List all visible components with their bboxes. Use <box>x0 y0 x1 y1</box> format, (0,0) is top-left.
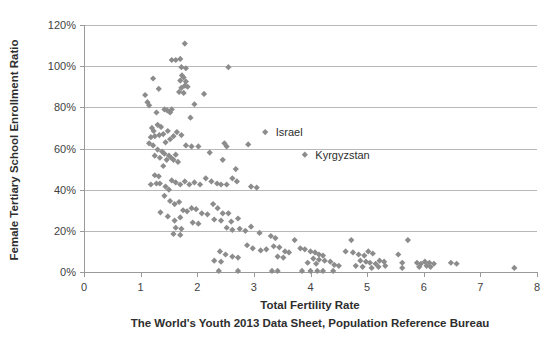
data-point <box>150 75 156 81</box>
scatter-chart: 0%20%40%60%80%100%120% 012345678 IsraelK… <box>0 0 553 343</box>
x-tick-label: 0 <box>81 281 87 293</box>
chart-subtitle: The World's Youth 2013 Data Sheet, Popul… <box>131 317 490 329</box>
y-tick-label: 120% <box>48 19 76 31</box>
data-point <box>320 268 326 274</box>
data-point <box>248 224 254 230</box>
data-point <box>190 220 196 226</box>
data-point <box>237 226 243 232</box>
data-point <box>310 256 316 262</box>
data-point <box>207 150 213 156</box>
data-point <box>225 210 231 216</box>
data-point <box>165 213 171 219</box>
data-point <box>269 268 275 274</box>
data-point <box>322 258 328 264</box>
y-tick-label: 100% <box>48 60 76 72</box>
data-point <box>356 251 362 257</box>
x-tick-label: 8 <box>534 281 540 293</box>
data-point <box>248 183 254 189</box>
data-point <box>173 57 179 63</box>
data-point <box>195 143 201 149</box>
annotation-label: Kyrgyzstan <box>315 149 369 161</box>
data-point <box>211 258 217 264</box>
data-point <box>336 263 342 269</box>
data-point <box>195 221 201 227</box>
annotation-label: Israel <box>276 126 303 138</box>
x-axis-tick-labels: 012345678 <box>81 281 540 293</box>
x-axis-title: Total Fertility Rate <box>260 299 359 311</box>
data-point <box>199 210 205 216</box>
data-point <box>225 64 231 70</box>
data-point <box>220 210 226 216</box>
data-point <box>148 181 154 187</box>
data-point <box>167 198 173 204</box>
data-point <box>299 268 305 274</box>
annotated-data-point <box>302 152 308 158</box>
data-point <box>203 175 209 181</box>
y-tick-label: 80% <box>54 101 76 113</box>
data-point <box>258 247 264 253</box>
data-point <box>210 201 216 207</box>
data-point <box>224 225 230 231</box>
data-point <box>220 157 226 163</box>
data-point <box>297 245 303 251</box>
data-point <box>280 254 286 260</box>
x-tick-label: 5 <box>364 281 370 293</box>
data-point <box>173 225 179 231</box>
data-point <box>250 245 256 251</box>
data-point <box>157 209 163 215</box>
y-tick-label: 60% <box>54 143 76 155</box>
annotated-data-point <box>262 129 268 135</box>
data-point <box>178 64 184 70</box>
data-point <box>229 175 235 181</box>
data-point <box>330 268 336 274</box>
data-point <box>235 215 241 221</box>
data-point <box>357 258 363 264</box>
data-point <box>399 265 405 271</box>
data-point <box>193 206 199 212</box>
data-point <box>314 268 320 274</box>
axis-ticks <box>80 26 538 278</box>
data-point <box>305 260 311 266</box>
data-point <box>182 178 188 184</box>
data-point <box>453 261 459 267</box>
data-point <box>172 217 178 223</box>
x-tick-label: 1 <box>138 281 144 293</box>
data-point <box>254 185 260 191</box>
data-point <box>187 115 193 121</box>
data-point <box>235 254 241 260</box>
data-point <box>208 178 214 184</box>
x-tick-label: 2 <box>194 281 200 293</box>
axis-lines <box>84 25 537 273</box>
data-point <box>157 180 163 186</box>
y-tick-label: 0% <box>60 266 76 278</box>
x-tick-label: 4 <box>307 281 313 293</box>
data-point <box>233 166 239 172</box>
data-point <box>353 263 359 269</box>
data-point <box>302 246 308 252</box>
data-point <box>395 251 401 257</box>
data-point <box>156 86 162 92</box>
data-point <box>224 181 230 187</box>
data-point <box>204 211 210 217</box>
data-point <box>177 232 183 238</box>
y-tick-label: 40% <box>54 184 76 196</box>
data-point <box>222 251 228 257</box>
data-point <box>177 214 183 220</box>
x-tick-label: 6 <box>421 281 427 293</box>
data-point <box>160 163 166 169</box>
data-point <box>161 193 167 199</box>
data-point <box>188 143 194 149</box>
data-point <box>188 205 194 211</box>
chart-canvas: 0%20%40%60%80%100%120% 012345678 IsraelK… <box>0 0 553 343</box>
data-point <box>142 92 148 98</box>
data-point <box>361 252 367 258</box>
data-point <box>307 268 313 274</box>
x-tick-label: 7 <box>477 281 483 293</box>
data-point <box>153 109 159 115</box>
data-point <box>276 244 282 250</box>
data-point <box>218 259 224 265</box>
y-axis-tick-labels: 0%20%40%60%80%100%120% <box>48 19 76 278</box>
data-point <box>229 253 235 259</box>
y-axis-title: Female Tertiary School Enrollment Ratio <box>8 40 20 261</box>
data-point <box>369 265 375 271</box>
